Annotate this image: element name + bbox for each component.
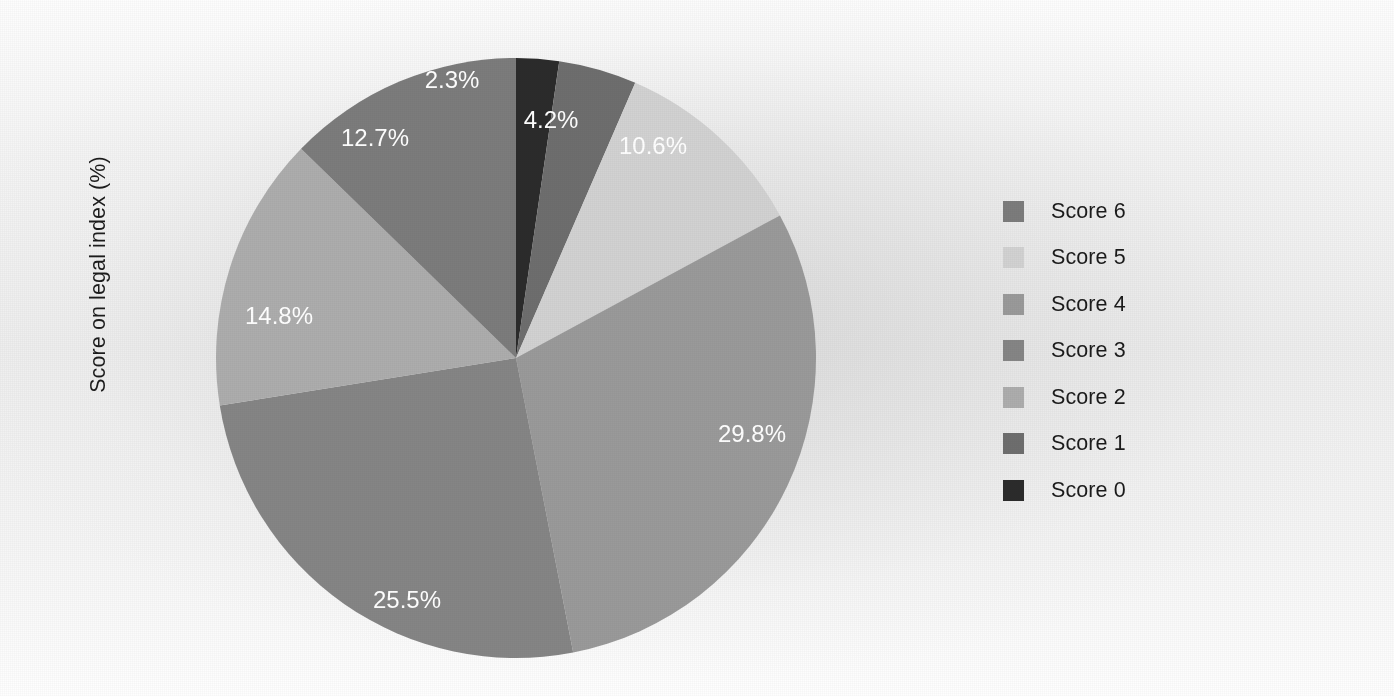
legend-item-label: Score 0 xyxy=(1051,478,1126,503)
legend-swatch-icon xyxy=(1003,294,1024,315)
legend-item[interactable]: Score 5 xyxy=(1003,235,1126,282)
legend-swatch-icon xyxy=(1003,433,1024,454)
pie-slice-label: 12.7% xyxy=(341,124,409,151)
pie-slice-label: 29.8% xyxy=(718,420,786,447)
legend-swatch-icon xyxy=(1003,480,1024,501)
pie-slice-label: 2.3% xyxy=(425,66,480,93)
legend-item-label: Score 5 xyxy=(1051,245,1126,270)
pie-slice-label: 25.5% xyxy=(373,586,441,613)
legend-swatch-icon xyxy=(1003,247,1024,268)
legend-item-label: Score 6 xyxy=(1051,199,1126,224)
legend-swatch-icon xyxy=(1003,201,1024,222)
legend-item[interactable]: Score 1 xyxy=(1003,421,1126,468)
pie-slice-label: 14.8% xyxy=(245,302,313,329)
legend-item[interactable]: Score 2 xyxy=(1003,374,1126,421)
pie-slice-label: 10.6% xyxy=(619,132,687,159)
legend-item[interactable]: Score 3 xyxy=(1003,328,1126,375)
pie-chart-figure: Score on legal index (%) 2.3%4.2%10.6%29… xyxy=(0,0,1394,696)
pie-chart-svg: 2.3%4.2%10.6%29.8%25.5%14.8%12.7% xyxy=(0,0,1394,696)
legend-item-label: Score 3 xyxy=(1051,338,1126,363)
legend-item-label: Score 4 xyxy=(1051,292,1126,317)
legend-item-label: Score 2 xyxy=(1051,385,1126,410)
legend-item[interactable]: Score 0 xyxy=(1003,467,1126,514)
pie-slice-label: 4.2% xyxy=(524,106,579,133)
legend-item[interactable]: Score 4 xyxy=(1003,281,1126,328)
pie-slices-group xyxy=(216,58,816,658)
legend-item-label: Score 1 xyxy=(1051,431,1126,456)
legend-item[interactable]: Score 6 xyxy=(1003,188,1126,235)
legend: Score 6Score 5Score 4Score 3Score 2Score… xyxy=(1003,188,1126,514)
legend-swatch-icon xyxy=(1003,387,1024,408)
legend-swatch-icon xyxy=(1003,340,1024,361)
